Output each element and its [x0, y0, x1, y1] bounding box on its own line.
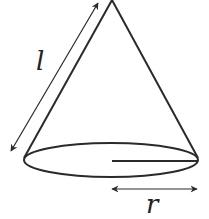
cone-right-side: [112, 0, 198, 158]
cone-left-side: [24, 0, 112, 158]
slant-height-arrow: [11, 3, 98, 151]
slant-height-label: l: [36, 46, 44, 76]
cone-diagram: l r: [0, 0, 209, 219]
radius-label: r: [146, 189, 160, 219]
